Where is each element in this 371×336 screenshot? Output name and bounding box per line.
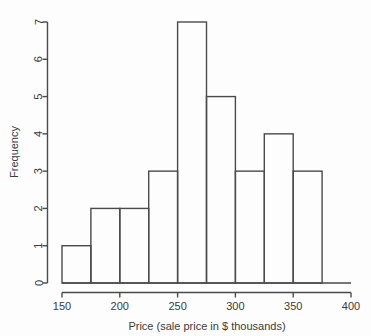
plot-background: [0, 0, 371, 336]
y-axis-tick-label: 4: [33, 131, 45, 137]
histogram-figure: 01234567 150200250300350400 Frequency Pr…: [0, 0, 371, 336]
x-axis-tick-label: 400: [342, 300, 360, 312]
y-axis-tick-label: 6: [33, 56, 45, 62]
x-axis-title: Price (sale price in $ thousands): [128, 320, 285, 332]
y-axis-tick-label: 5: [33, 94, 45, 100]
x-axis-tick-label: 150: [53, 300, 71, 312]
y-axis-title: Frequency: [8, 126, 20, 178]
x-axis-tick-label: 200: [111, 300, 129, 312]
y-axis-tick-label: 1: [33, 243, 45, 249]
histogram-plot-canvas: 01234567 150200250300350400 Frequency Pr…: [0, 0, 371, 336]
y-axis-tick-label: 0: [33, 280, 45, 286]
y-axis-tick-label: 3: [33, 168, 45, 174]
y-axis-tick-label: 2: [33, 205, 45, 211]
x-axis-tick-label: 250: [168, 300, 186, 312]
y-axis-tick-label: 7: [33, 19, 45, 25]
x-axis-tick-label: 350: [284, 300, 302, 312]
x-axis-tick-label: 300: [226, 300, 244, 312]
